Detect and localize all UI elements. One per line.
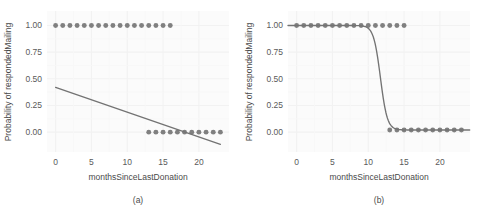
y-axis-title: Probability of respondedMailing <box>3 22 13 141</box>
y-tick-label: 1.00 <box>25 20 42 30</box>
x-tick-label: 20 <box>194 157 204 167</box>
x-tick-label: 0 <box>294 157 299 167</box>
figure-container: 0.000.250.500.751.0005101520monthsSinceL… <box>0 0 482 213</box>
x-tick-label: 5 <box>89 157 94 167</box>
x-tick-label: 20 <box>435 157 445 167</box>
x-axis-tick-labels: 05101520 <box>294 157 445 167</box>
y-axis-title: Probability of respondedMailing <box>244 22 254 141</box>
x-tick-label: 15 <box>399 157 409 167</box>
y-tick-label: 0.00 <box>266 127 283 137</box>
scatter-plot-b: 0.000.250.500.751.0005101520monthsSinceL… <box>241 0 482 213</box>
panel-caption: (b) <box>374 195 385 205</box>
y-tick-label: 0.50 <box>25 74 42 84</box>
y-tick-label: 0.75 <box>266 47 283 57</box>
x-tick-label: 0 <box>53 157 58 167</box>
y-tick-label: 0.75 <box>25 47 42 57</box>
x-axis-tick-labels: 05101520 <box>53 157 204 167</box>
scatter-plot-a: 0.000.250.500.751.0005101520monthsSinceL… <box>0 0 241 213</box>
y-axis-tick-labels: 0.000.250.500.751.00 <box>266 20 283 137</box>
x-tick-label: 15 <box>158 157 168 167</box>
x-tick-label: 10 <box>123 157 133 167</box>
y-tick-label: 1.00 <box>266 20 283 30</box>
y-axis-tick-labels: 0.000.250.500.751.00 <box>25 20 42 137</box>
x-tick-label: 5 <box>330 157 335 167</box>
y-tick-label: 0.00 <box>25 127 42 137</box>
chart-panel-a: 0.000.250.500.751.0005101520monthsSinceL… <box>0 0 241 213</box>
y-tick-label: 0.50 <box>266 74 283 84</box>
panel-caption: (a) <box>133 195 144 205</box>
y-tick-label: 0.25 <box>266 100 283 110</box>
y-tick-label: 0.25 <box>25 100 42 110</box>
chart-panel-b: 0.000.250.500.751.0005101520monthsSinceL… <box>241 0 482 213</box>
x-axis-title: monthsSinceLastDonation <box>329 172 429 182</box>
x-axis-title: monthsSinceLastDonation <box>88 172 188 182</box>
x-tick-label: 10 <box>364 157 374 167</box>
